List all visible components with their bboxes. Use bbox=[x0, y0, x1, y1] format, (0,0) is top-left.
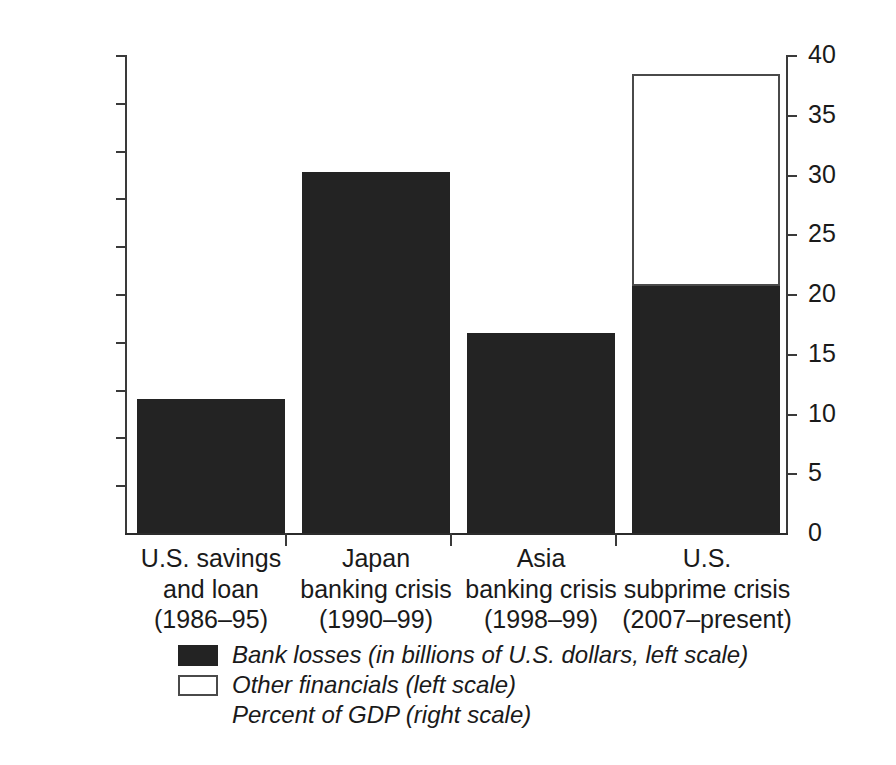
legend-swatch-icon-percent-of-gdp bbox=[178, 705, 218, 726]
legend-label-other-financials: Other financials (left scale) bbox=[232, 671, 516, 699]
left-tick-200 bbox=[116, 437, 125, 439]
right-axis-label-35: 35 bbox=[808, 102, 836, 127]
plot-area bbox=[125, 55, 788, 533]
legend-swatch-icon-bank-losses bbox=[178, 645, 218, 666]
left-tick-1000 bbox=[116, 55, 125, 57]
category-line: (1986–95) bbox=[125, 604, 297, 635]
left-tick-600 bbox=[116, 246, 125, 248]
category-label-asia-banking-crisis: Asia banking crisis (1998–99) bbox=[455, 543, 627, 635]
category-line: banking crisis bbox=[290, 574, 462, 605]
category-line: banking crisis bbox=[455, 574, 627, 605]
category-label-us-subprime-crisis: U.S. subprime crisis (2007–present) bbox=[617, 543, 797, 635]
legend-label-bank-losses: Bank losses (in billions of U.S. dollars… bbox=[232, 641, 748, 669]
left-tick-400 bbox=[116, 342, 125, 344]
bar-other-financials-us-subprime-crisis bbox=[632, 74, 780, 286]
right-axis-label-15: 15 bbox=[808, 341, 836, 366]
chart-legend: Bank losses (in billions of U.S. dollars… bbox=[178, 640, 818, 730]
left-tick-800 bbox=[116, 151, 125, 153]
category-line: U.S. savings bbox=[125, 543, 297, 574]
right-axis-label-30: 30 bbox=[808, 162, 836, 187]
left-tick-300 bbox=[116, 390, 125, 392]
right-axis-label-20: 20 bbox=[808, 281, 836, 306]
x-axis-baseline bbox=[125, 533, 788, 535]
right-tick-20 bbox=[788, 294, 797, 296]
right-tick-25 bbox=[788, 234, 797, 236]
left-axis-spine bbox=[125, 55, 127, 533]
category-line: (1998–99) bbox=[455, 604, 627, 635]
bar-bank-losses-asia-banking-crisis bbox=[467, 333, 615, 533]
category-line: Japan bbox=[290, 543, 462, 574]
category-line: Asia bbox=[455, 543, 627, 574]
left-tick-500 bbox=[116, 294, 125, 296]
legend-item-percent-of-gdp: Percent of GDP (right scale) bbox=[178, 700, 818, 730]
right-tick-5 bbox=[788, 473, 797, 475]
right-axis-label-5: 5 bbox=[808, 460, 822, 485]
right-axis-label-40: 40 bbox=[808, 42, 836, 67]
right-tick-40 bbox=[788, 55, 797, 57]
right-tick-35 bbox=[788, 115, 797, 117]
bar-bank-losses-us-savings-and-loan bbox=[137, 399, 285, 533]
bar-bank-losses-us-subprime-crisis bbox=[632, 286, 780, 533]
bar-bank-losses-japan-banking-crisis bbox=[302, 172, 450, 533]
category-label-japan-banking-crisis: Japan banking crisis (1990–99) bbox=[290, 543, 462, 635]
right-axis-label-25: 25 bbox=[808, 221, 836, 246]
x-axis-category-labels: U.S. savings and loan (1986–95) Japan ba… bbox=[125, 543, 788, 638]
right-axis-label-0: 0 bbox=[808, 520, 822, 545]
right-tick-15 bbox=[788, 354, 797, 356]
legend-item-other-financials: Other financials (left scale) bbox=[178, 670, 818, 700]
legend-item-bank-losses: Bank losses (in billions of U.S. dollars… bbox=[178, 640, 818, 670]
category-line: U.S. bbox=[617, 543, 797, 574]
chart-figure: 1,000 900 800 700 600 500 400 300 200 10… bbox=[0, 0, 896, 765]
category-line: and loan bbox=[125, 574, 297, 605]
category-label-us-savings-and-loan: U.S. savings and loan (1986–95) bbox=[125, 543, 297, 635]
category-line: (1990–99) bbox=[290, 604, 462, 635]
category-line: (2007–present) bbox=[617, 604, 797, 635]
legend-swatch-icon-other-financials bbox=[178, 675, 218, 696]
right-axis-label-10: 10 bbox=[808, 401, 836, 426]
left-tick-100 bbox=[116, 485, 125, 487]
left-tick-700 bbox=[116, 198, 125, 200]
right-tick-10 bbox=[788, 414, 797, 416]
left-tick-900 bbox=[116, 103, 125, 105]
category-line: subprime crisis bbox=[617, 574, 797, 605]
right-tick-30 bbox=[788, 175, 797, 177]
legend-label-percent-of-gdp: Percent of GDP (right scale) bbox=[232, 701, 531, 729]
